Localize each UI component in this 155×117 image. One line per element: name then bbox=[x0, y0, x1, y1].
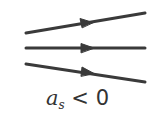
operator: < bbox=[65, 86, 96, 110]
upper-arrow-icon bbox=[80, 19, 93, 28]
variable: a bbox=[46, 86, 59, 110]
condition-label: as < 0 bbox=[0, 86, 155, 117]
middle-arrow-icon bbox=[81, 44, 94, 53]
value: 0 bbox=[96, 86, 109, 110]
